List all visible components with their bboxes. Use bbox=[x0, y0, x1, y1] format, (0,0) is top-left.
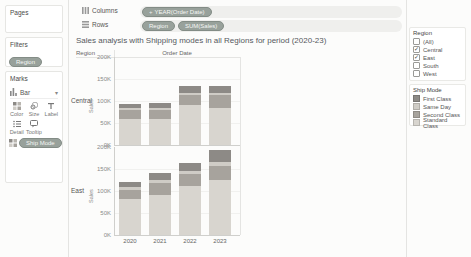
region-filter-item[interactable]: (All) bbox=[413, 38, 462, 45]
y-tick-label: 50K bbox=[91, 210, 111, 217]
columns-pill[interactable]: +YEAR(Order Date) bbox=[142, 7, 212, 17]
bar-chart-icon bbox=[10, 88, 17, 96]
columns-shelf-tray[interactable]: +YEAR(Order Date) bbox=[140, 6, 402, 18]
region-filter-item-label: South bbox=[423, 63, 439, 69]
legend-item[interactable]: Same Day bbox=[413, 103, 462, 110]
bar-segment[interactable] bbox=[209, 86, 231, 93]
y-tick-label: 200K bbox=[91, 54, 111, 61]
checkbox-icon[interactable] bbox=[413, 46, 420, 53]
sheet-title[interactable]: Sales analysis with Shipping modes in al… bbox=[76, 36, 326, 45]
bar-segment[interactable] bbox=[179, 86, 201, 93]
rows-pill-text: SUM(Sales) bbox=[185, 23, 217, 29]
stacked-bar[interactable] bbox=[179, 86, 201, 145]
filters-shelf[interactable]: Filters Region bbox=[5, 37, 63, 67]
bar-segment[interactable] bbox=[149, 195, 171, 235]
label-button[interactable]: Label bbox=[43, 101, 60, 118]
stacked-bar[interactable] bbox=[209, 150, 231, 235]
rows-icon bbox=[82, 21, 89, 28]
stacked-bar[interactable] bbox=[119, 182, 141, 235]
x-axis-line bbox=[114, 235, 240, 236]
color-button-label: Color bbox=[10, 111, 23, 117]
stacked-bar[interactable] bbox=[149, 103, 171, 145]
bar-segment[interactable] bbox=[209, 180, 231, 235]
pages-shelf[interactable]: Pages bbox=[5, 5, 63, 33]
stacked-bar[interactable] bbox=[209, 86, 231, 145]
bar-segment[interactable] bbox=[119, 110, 141, 118]
region-filter-item[interactable]: West bbox=[413, 70, 462, 77]
stacked-bar[interactable] bbox=[119, 104, 141, 145]
filters-pill-area: Region bbox=[6, 50, 62, 68]
y-axis-line bbox=[114, 147, 115, 235]
bar-segment[interactable] bbox=[179, 105, 201, 145]
filter-pill[interactable]: Region bbox=[9, 57, 42, 67]
stacked-bar[interactable] bbox=[179, 163, 201, 235]
encoding-pill-text: Ship Mode bbox=[26, 140, 55, 146]
rows-label-text: Rows bbox=[92, 21, 108, 28]
marks-buttons: ColorSizeLabelDetailTooltip bbox=[8, 101, 60, 136]
encoding-pill[interactable]: Ship Mode bbox=[19, 138, 62, 148]
y-tick-label: 100K bbox=[91, 188, 111, 195]
checkbox-icon[interactable] bbox=[413, 54, 420, 61]
rows-shelf-tray[interactable]: RegionSUM(Sales) bbox=[140, 20, 402, 32]
bar-segment[interactable] bbox=[149, 173, 171, 180]
pages-label: Pages bbox=[6, 6, 62, 18]
encoding-row: Ship Mode bbox=[9, 138, 59, 148]
bar-segment[interactable] bbox=[149, 110, 171, 119]
x-tick-label: 2021 bbox=[145, 238, 175, 246]
bar-segment[interactable] bbox=[119, 199, 141, 235]
checkbox-icon[interactable] bbox=[413, 62, 420, 69]
detail-button-label: Detail bbox=[10, 129, 24, 135]
columns-shelf-label: Columns bbox=[82, 7, 118, 14]
bar-segment[interactable] bbox=[179, 163, 201, 170]
bar-segment[interactable] bbox=[209, 95, 231, 108]
ship-mode-legend-title: Ship Mode bbox=[413, 87, 462, 93]
marks-card: Marks Bar ▾ ColorSizeLabelDetailTooltip … bbox=[5, 71, 63, 183]
region-filter-item-label: East bbox=[423, 55, 435, 61]
columns-label-text: Columns bbox=[92, 7, 118, 14]
region-filter-item[interactable]: East bbox=[413, 54, 462, 61]
bar-segment[interactable] bbox=[149, 119, 171, 145]
gridline bbox=[115, 79, 240, 80]
color-icon bbox=[9, 139, 17, 147]
legend-item[interactable]: Standard Class bbox=[413, 119, 462, 126]
checkbox-icon[interactable] bbox=[413, 38, 420, 45]
legend-item-label: Same Day bbox=[423, 104, 451, 110]
bar-segment[interactable] bbox=[209, 108, 231, 145]
rows-pill[interactable]: SUM(Sales) bbox=[178, 21, 224, 31]
bar-segment[interactable] bbox=[179, 95, 201, 105]
bar-segment[interactable] bbox=[179, 186, 201, 235]
bar-segment[interactable] bbox=[119, 190, 141, 200]
size-button[interactable]: Size bbox=[25, 101, 42, 118]
header-vertical-divider bbox=[114, 50, 115, 57]
tooltip-button[interactable]: Tooltip bbox=[25, 119, 42, 136]
y-tick-label: 0K bbox=[91, 232, 111, 239]
size-button-label: Size bbox=[29, 111, 40, 117]
checkbox-icon[interactable] bbox=[413, 70, 420, 77]
mark-type-dropdown[interactable]: Bar ▾ bbox=[10, 86, 58, 99]
legend-item-label: Standard Class bbox=[423, 117, 462, 129]
expand-icon: + bbox=[149, 9, 153, 15]
bar-segment[interactable] bbox=[209, 166, 231, 181]
color-button[interactable]: Color bbox=[8, 101, 25, 118]
tooltip-button-label: Tooltip bbox=[26, 129, 42, 135]
legend-swatch bbox=[413, 119, 420, 126]
bar-segment[interactable] bbox=[209, 150, 231, 163]
detail-button[interactable]: Detail bbox=[8, 119, 25, 136]
size-icon bbox=[30, 102, 38, 110]
region-filter-item[interactable]: South bbox=[413, 62, 462, 69]
tableau-window: Pages Filters Region Marks Bar ▾ ColorSi… bbox=[0, 0, 471, 257]
legend-swatch bbox=[413, 111, 420, 118]
bar-segment[interactable] bbox=[149, 183, 171, 195]
mark-type-value: Bar bbox=[20, 89, 30, 96]
x-tick-label: 2022 bbox=[175, 238, 205, 246]
marks-encodings: Ship Mode bbox=[6, 138, 62, 148]
legend-item[interactable]: First Class bbox=[413, 95, 462, 102]
detail-icon bbox=[13, 120, 21, 128]
bar-segment[interactable] bbox=[179, 174, 201, 185]
stacked-bar[interactable] bbox=[149, 173, 171, 235]
region-filter-item[interactable]: Central bbox=[413, 46, 462, 53]
bar-segment[interactable] bbox=[119, 119, 141, 145]
rows-pill[interactable]: Region bbox=[142, 21, 175, 31]
ship-mode-legend-card: Ship Mode First ClassSame DaySecond Clas… bbox=[409, 84, 466, 126]
filter-pill-text: Region bbox=[16, 59, 35, 65]
